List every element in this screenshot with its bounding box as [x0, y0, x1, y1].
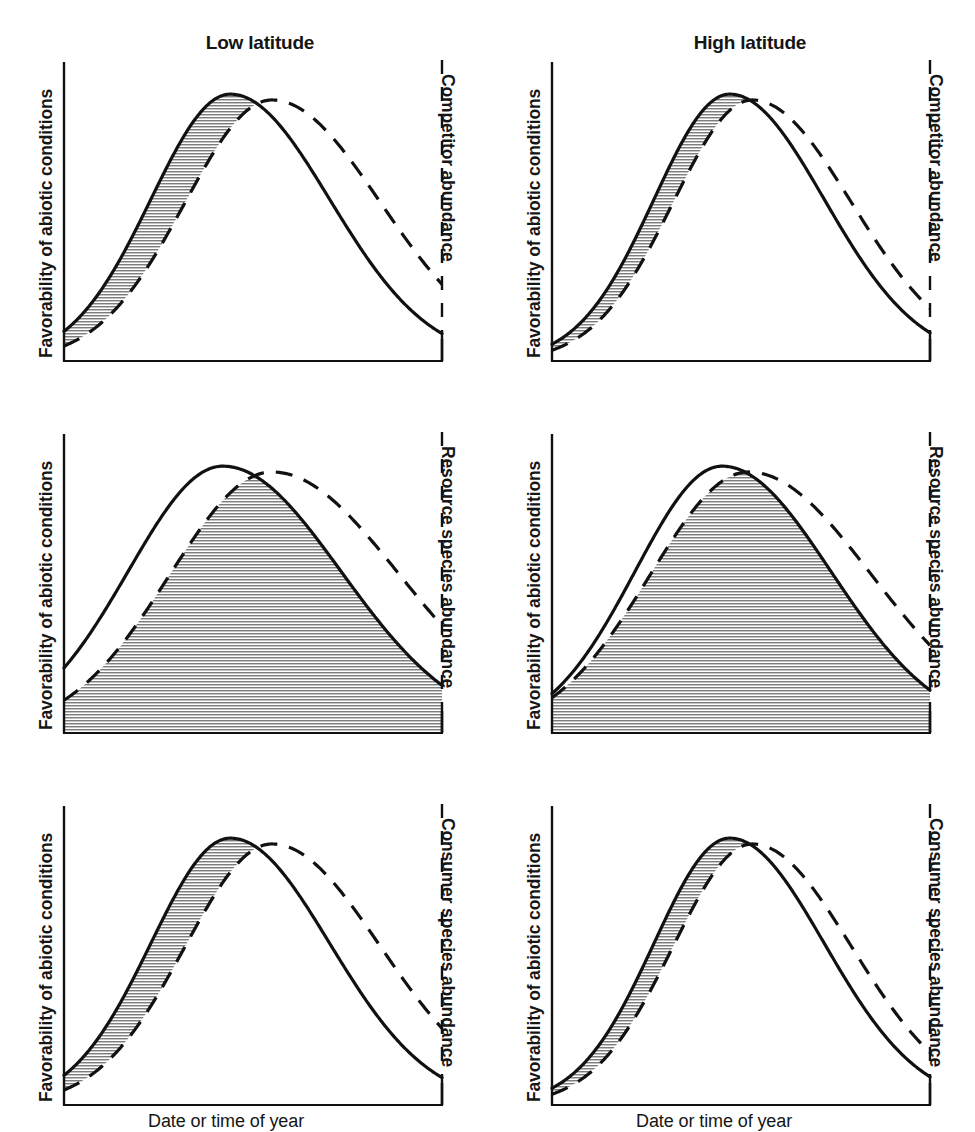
y-axis-right-label: Consumer species abundance: [437, 818, 458, 1067]
y-axis-left-label: Favorability of abiotic conditions: [524, 89, 545, 358]
y-axis-right-label: Consumer species abundance: [925, 818, 946, 1067]
y-axis-right-label: Resource species abundance: [925, 446, 946, 688]
y-axis-right-label: Competitor abundance: [437, 74, 458, 262]
y-axis-left-label: Favorability of abiotic conditions: [36, 461, 57, 730]
panel-low-competitor: Favorability of abiotic conditionsCompet…: [0, 0, 487, 366]
dashed-abundance-curve: [64, 100, 442, 346]
shaded-region: [552, 472, 930, 733]
dashed-abundance-curve: [552, 100, 930, 350]
panel-high-resource: Favorability of abiotic conditionsResour…: [488, 372, 975, 738]
dashed-abundance-curve: [64, 844, 442, 1090]
y-axis-left-label: Favorability of abiotic conditions: [524, 833, 545, 1102]
panel-high-consumer: Favorability of abiotic conditionsConsum…: [488, 744, 975, 1110]
shaded-region: [552, 94, 750, 350]
y-axis-right-label: Resource species abundance: [437, 446, 458, 688]
shaded-region: [64, 476, 442, 733]
y-axis-left-label: Favorability of abiotic conditions: [36, 89, 57, 358]
y-axis-right-label: Competitor abundance: [925, 74, 946, 262]
y-axis-left-label: Favorability of abiotic conditions: [524, 461, 545, 730]
dashed-abundance-curve: [552, 844, 930, 1094]
shaded-region: [552, 838, 750, 1094]
y-axis-left-label: Favorability of abiotic conditions: [36, 833, 57, 1102]
panel-low-consumer: Favorability of abiotic conditionsConsum…: [0, 744, 487, 1110]
panel-high-competitor: Favorability of abiotic conditionsCompet…: [488, 0, 975, 366]
x-axis-label: Date or time of year: [636, 1111, 792, 1132]
x-axis-label: Date or time of year: [148, 1111, 304, 1132]
panel-low-resource: Favorability of abiotic conditionsResour…: [0, 372, 487, 738]
